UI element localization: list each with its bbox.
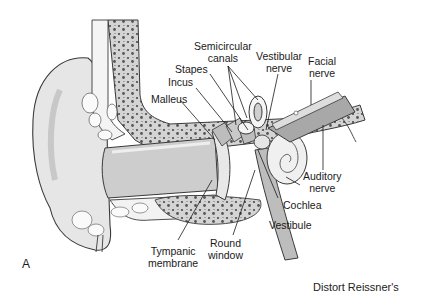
label-vestibule: Vestibule <box>269 220 312 232</box>
label-round-window: Round window <box>208 238 243 261</box>
label-cochlea: Cochlea <box>283 200 322 212</box>
label-malleus: Malleus <box>151 94 187 106</box>
label-facial-nerve: Facial nerve <box>308 56 336 79</box>
label-incus: Incus <box>168 77 193 89</box>
label-auditory-nerve: Auditory nerve <box>303 171 342 194</box>
panel-letter: A <box>22 257 30 271</box>
label-stapes: Stapes <box>175 64 208 76</box>
nerve-bundle <box>268 92 356 142</box>
ear-canal <box>102 138 218 198</box>
label-vestibular-nerve: Vestibular nerve <box>256 51 302 74</box>
label-semicircular-canals: Semicircular canals <box>194 41 252 64</box>
caption-fragment: Distort Reissner's <box>313 281 399 293</box>
label-tympanic-membrane: Tympanic membrane <box>148 246 198 269</box>
vestibule <box>254 135 270 149</box>
